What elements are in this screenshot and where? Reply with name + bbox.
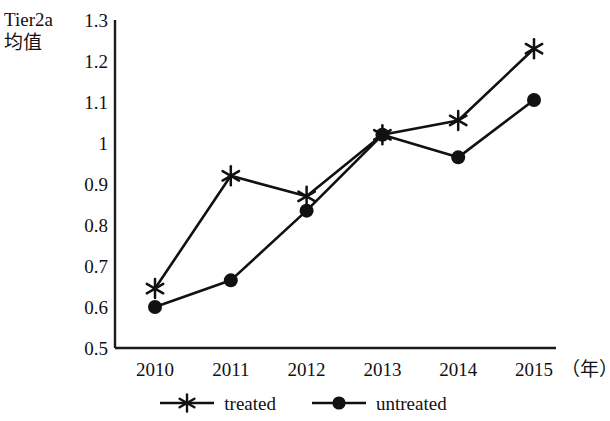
- data-point-marker: [298, 187, 314, 206]
- legend-item-treated: treated: [158, 393, 276, 413]
- y-tick-label: 1.1: [52, 93, 108, 112]
- series-untreated: [148, 93, 541, 314]
- y-tick-label: 1.2: [52, 52, 108, 71]
- y-tick-label: 1: [52, 134, 108, 153]
- legend-label-untreated: untreated: [376, 394, 447, 413]
- y-tick-label: 0.8: [52, 216, 108, 235]
- y-tick-label: 0.5: [52, 339, 108, 358]
- chart-legend: treated untreated: [0, 389, 605, 417]
- series-treated: [147, 39, 542, 298]
- legend-label-treated: treated: [224, 394, 276, 413]
- data-point-marker: [148, 300, 162, 314]
- data-point-marker: [375, 128, 389, 142]
- data-point-marker: [224, 273, 238, 287]
- series-line: [155, 49, 534, 289]
- x-axis-unit-label: （年）: [561, 360, 610, 379]
- x-tick-label: 2015: [499, 360, 569, 379]
- y-tick-label: 0.7: [52, 257, 108, 276]
- y-tick-label: 0.9: [52, 175, 108, 194]
- x-tick-label: 2012: [272, 360, 342, 379]
- x-tick-label: 2014: [423, 360, 493, 379]
- data-point-marker: [527, 93, 541, 107]
- x-tick-label: 2010: [120, 360, 190, 379]
- filled-circle-marker-icon: [310, 393, 368, 413]
- asterisk-marker-icon: [158, 393, 216, 413]
- y-tick-label: 1.3: [52, 11, 108, 30]
- data-point-marker: [300, 204, 314, 218]
- legend-item-untreated: untreated: [310, 393, 447, 413]
- x-tick-label: 2013: [347, 360, 417, 379]
- data-point-marker: [451, 150, 465, 164]
- x-tick-label: 2011: [196, 360, 266, 379]
- y-tick-label: 0.6: [52, 298, 108, 317]
- series-layer: [147, 39, 542, 314]
